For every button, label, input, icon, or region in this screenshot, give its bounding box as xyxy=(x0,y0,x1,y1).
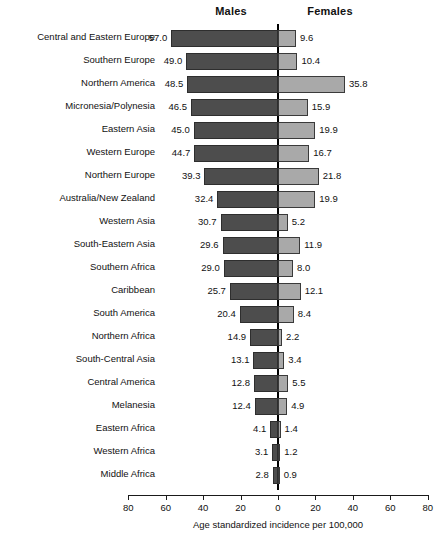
chart-row: Northern Africa14.92.2 xyxy=(0,327,446,350)
chart-row: Southern Europe49.010.4 xyxy=(0,51,446,74)
category-label: Australia/New Zealand xyxy=(0,192,155,204)
bar-male xyxy=(194,145,278,162)
bar-value-male: 39.3 xyxy=(156,170,200,182)
bar-value-male: 12.8 xyxy=(206,377,250,389)
bar-value-male: 57.0 xyxy=(123,32,167,44)
bar-male xyxy=(255,398,278,415)
axis-tick xyxy=(278,495,279,500)
axis-tick-label: 40 xyxy=(340,502,366,513)
axis-tick xyxy=(203,495,204,500)
bar-female xyxy=(278,398,287,415)
axis-tick xyxy=(166,495,167,500)
bar-value-female: 21.8 xyxy=(323,170,342,182)
diverging-bar-chart: Males Females Central and Eastern Europe… xyxy=(0,0,446,546)
category-label: Micronesia/Polynesia xyxy=(0,100,155,112)
axis-tick-label: 0 xyxy=(265,502,291,513)
category-label: Western Europe xyxy=(0,146,155,158)
axis-tick xyxy=(390,495,391,500)
category-label: Melanesia xyxy=(0,399,155,411)
bar-value-female: 5.2 xyxy=(292,216,305,228)
bar-value-female: 15.9 xyxy=(312,101,331,113)
chart-row: Central America12.85.5 xyxy=(0,373,446,396)
category-label: Eastern Africa xyxy=(0,422,155,434)
bar-value-female: 0.9 xyxy=(284,469,297,481)
bar-male xyxy=(230,283,278,300)
chart-row: Western Africa3.11.2 xyxy=(0,442,446,465)
chart-row: Northern America48.535.8 xyxy=(0,74,446,97)
axis-title-text: Age standardized incidence per 100,000 xyxy=(193,519,363,530)
chart-row: Middle Africa2.80.9 xyxy=(0,465,446,488)
bar-female xyxy=(278,375,288,392)
bar-female xyxy=(278,306,294,323)
axis-tick xyxy=(315,495,316,500)
bar-female xyxy=(278,145,309,162)
bar-value-female: 10.4 xyxy=(301,55,320,67)
category-label: Northern Europe xyxy=(0,169,155,181)
chart-row: South-Central Asia13.13.4 xyxy=(0,350,446,373)
chart-row: Southern Africa29.08.0 xyxy=(0,258,446,281)
axis-title: Age standardized incidence per 100,000 xyxy=(0,519,446,530)
category-label: Western Asia xyxy=(0,215,155,227)
bar-male xyxy=(217,191,278,208)
axis-tick xyxy=(353,495,354,500)
bar-female xyxy=(278,444,280,461)
axis-tick-label: 80 xyxy=(115,502,141,513)
bar-value-female: 11.9 xyxy=(304,239,322,251)
bar-male xyxy=(204,168,278,185)
bar-value-male: 14.9 xyxy=(202,331,246,343)
column-header-males: Males xyxy=(196,5,266,17)
bar-male xyxy=(171,30,278,47)
bar-male xyxy=(250,329,278,346)
category-label: Southern Europe xyxy=(0,54,155,66)
bar-female xyxy=(278,76,345,93)
bar-value-female: 3.4 xyxy=(288,354,301,366)
axis-tick xyxy=(241,495,242,500)
bar-value-male: 29.6 xyxy=(175,239,219,251)
bar-value-female: 1.4 xyxy=(285,423,298,435)
column-header-females: Females xyxy=(292,5,368,17)
category-label: Northern America xyxy=(0,77,155,89)
bar-female xyxy=(278,237,300,254)
axis-tick-label: 60 xyxy=(377,502,403,513)
bar-male xyxy=(254,375,278,392)
chart-rows: Central and Eastern Europe57.09.6Souther… xyxy=(0,28,446,488)
axis-tick xyxy=(128,495,129,500)
category-label: Caribbean xyxy=(0,284,155,296)
bar-value-female: 1.2 xyxy=(284,446,297,458)
bar-female xyxy=(278,30,296,47)
bar-value-female: 8.4 xyxy=(298,308,311,320)
bar-value-male: 29.0 xyxy=(176,262,220,274)
chart-row: Western Asia30.75.2 xyxy=(0,212,446,235)
bar-female xyxy=(278,329,282,346)
bar-value-female: 19.9 xyxy=(319,193,338,205)
bar-value-male: 20.4 xyxy=(192,308,236,320)
category-label: Southern Africa xyxy=(0,261,155,273)
bar-male xyxy=(221,214,278,231)
bar-value-female: 19.9 xyxy=(319,124,338,136)
category-label: South-Eastern Asia xyxy=(0,238,155,250)
axis-tick-label: 40 xyxy=(190,502,216,513)
chart-row: Caribbean25.712.1 xyxy=(0,281,446,304)
bar-value-male: 3.1 xyxy=(224,446,268,458)
chart-row: South America20.48.4 xyxy=(0,304,446,327)
category-label: Western Africa xyxy=(0,445,155,457)
bar-value-female: 12.1 xyxy=(305,285,324,297)
bar-female xyxy=(278,467,280,484)
axis-tick xyxy=(428,495,429,500)
bar-male xyxy=(191,99,278,116)
bar-male xyxy=(224,260,278,277)
bar-female xyxy=(278,122,315,139)
bar-value-male: 25.7 xyxy=(182,285,226,297)
bar-value-female: 16.7 xyxy=(313,147,332,159)
chart-row: Australia/New Zealand32.419.9 xyxy=(0,189,446,212)
bar-female xyxy=(278,53,297,70)
bar-value-male: 12.4 xyxy=(207,400,251,412)
bar-value-male: 30.7 xyxy=(173,216,217,228)
bar-female xyxy=(278,99,308,116)
chart-row: Eastern Asia45.019.9 xyxy=(0,120,446,143)
category-label: South America xyxy=(0,307,155,319)
chart-row: South-Eastern Asia29.611.9 xyxy=(0,235,446,258)
bar-value-female: 2.2 xyxy=(286,331,299,343)
bar-male xyxy=(270,421,278,438)
bar-female xyxy=(278,191,315,208)
